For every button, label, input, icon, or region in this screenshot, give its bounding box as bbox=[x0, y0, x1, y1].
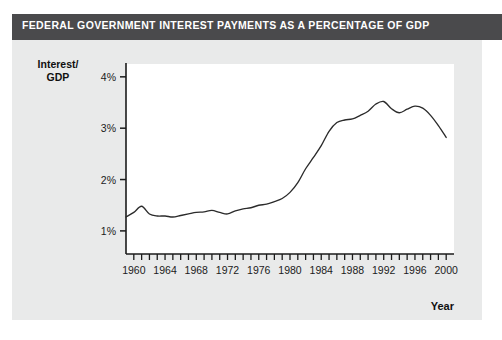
x-tick-label: 1972 bbox=[216, 264, 240, 276]
chart-canvas: 1%2%3%4%19601964196819721976198019841988… bbox=[0, 0, 502, 340]
x-tick-label: 1984 bbox=[310, 264, 334, 276]
y-tick-label: 2% bbox=[101, 174, 116, 186]
x-tick-label: 1976 bbox=[247, 264, 271, 276]
tick-labels-group: 1%2%3%4%19601964196819721976198019841988… bbox=[101, 71, 458, 276]
x-axis-label: Year bbox=[0, 300, 454, 312]
x-tick-label: 2000 bbox=[435, 264, 459, 276]
x-tick-label: 1964 bbox=[153, 264, 177, 276]
x-tick-label: 1992 bbox=[372, 264, 396, 276]
y-tick-label: 1% bbox=[101, 225, 116, 237]
x-tick-label: 1988 bbox=[341, 264, 365, 276]
x-tick-label: 1968 bbox=[185, 264, 209, 276]
chart-figure: FEDERAL GOVERNMENT INTEREST PAYMENTS AS … bbox=[0, 0, 502, 340]
x-tick-label: 1960 bbox=[122, 264, 146, 276]
ticks-group bbox=[120, 77, 446, 260]
axes-group bbox=[126, 63, 454, 254]
data-line bbox=[126, 101, 446, 217]
x-tick-label: 1996 bbox=[403, 264, 427, 276]
data-series-group bbox=[126, 101, 446, 217]
x-tick-label: 1980 bbox=[278, 264, 302, 276]
y-tick-label: 3% bbox=[101, 122, 116, 134]
y-tick-label: 4% bbox=[101, 71, 116, 83]
